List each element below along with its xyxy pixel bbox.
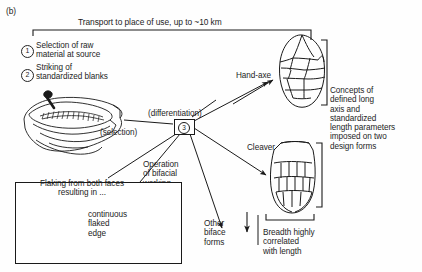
selection-connector: [124, 120, 173, 124]
figure-panel-b: (b) Transport to place of use, up to ~10…: [0, 0, 422, 272]
cleaver-label: Cleaver: [247, 143, 275, 152]
handaxe-label: Hand-axe: [236, 71, 271, 80]
flaking-label: Flaking from both faces resulting in ...: [40, 179, 124, 198]
concepts-bracket-lower: [316, 143, 322, 207]
other-biface-forms-label: Other biface forms: [204, 219, 226, 247]
cleaver-illustration: [270, 142, 315, 214]
transport-bracket: [33, 30, 311, 40]
step-number-3: 3: [178, 122, 190, 134]
transport-label: Transport to place of use, up to ~10 km: [78, 18, 222, 27]
differentiation-label: (differentiation): [148, 109, 202, 118]
panel-label: (b): [6, 7, 16, 16]
continuous-flaked-edge-label: continuous flaked edge: [88, 210, 127, 238]
handaxe-illustration: [279, 35, 325, 107]
step-number-1: 1: [21, 45, 34, 58]
core-nodule-illustration: [24, 91, 122, 154]
step-label-1: Selection of raw material at source: [36, 41, 100, 60]
selection-label: (selection): [100, 128, 137, 137]
breadth-annotation: Breadth highly correlated with length: [263, 228, 315, 256]
step-label-2: Striking of standardized blanks: [36, 63, 108, 82]
step-number-2: 2: [21, 69, 34, 82]
breadth-bracket: [266, 214, 314, 220]
concepts-annotation: Concepts of defined long axis and standa…: [330, 86, 395, 151]
handaxe-arrow: [233, 80, 273, 104]
